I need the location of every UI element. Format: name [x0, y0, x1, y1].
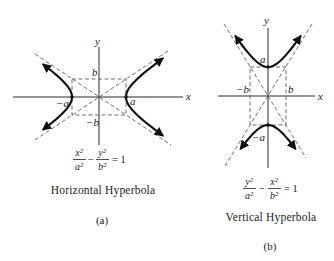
x-axis-label: x: [317, 90, 323, 102]
equation-horizontal: x² a² − y² b² = 1: [73, 147, 126, 172]
panel-caption: (b): [264, 240, 277, 253]
asymptote-positive: [35, 51, 168, 140]
eq-rhs: = 1: [284, 183, 298, 194]
label-neg-a: −a: [56, 97, 69, 109]
eq-numerator-1: y²: [244, 176, 253, 187]
label-neg-b: −b: [236, 83, 249, 95]
eq-numerator-2: y²: [97, 147, 106, 158]
eq-numerator-2: x²: [269, 176, 278, 187]
y-axis-label: y: [263, 14, 269, 26]
label-b: b: [288, 83, 294, 95]
eq-denominator-2: b²: [98, 161, 107, 172]
eq-rhs: = 1: [112, 154, 126, 165]
panel-horizontal-hyperbola: y x b −b −a a x² a² − y² b² = 1 Horizont…: [13, 35, 191, 227]
vertex-top: [266, 65, 270, 69]
eq-denominator-1: a²: [75, 161, 84, 172]
x-axis-label: x: [185, 90, 191, 102]
label-b: b: [92, 66, 98, 78]
hyperbola-figure: y x b −b −a a x² a² − y² b² = 1 Horizont…: [0, 0, 334, 261]
vertex-left: [70, 95, 74, 99]
vertex-bottom: [266, 123, 270, 127]
eq-numerator-1: x²: [74, 147, 83, 158]
eq-operator: −: [88, 154, 94, 165]
panel-title: Vertical Hyperbola: [226, 211, 317, 224]
equation-vertical: y² a² − x² b² = 1: [243, 176, 298, 201]
eq-operator: −: [259, 183, 265, 194]
label-a: a: [260, 53, 266, 65]
label-neg-b: −b: [86, 116, 99, 128]
eq-denominator-1: a²: [245, 190, 254, 201]
vertex-right: [124, 95, 128, 99]
label-a: a: [130, 95, 136, 107]
panel-title: Horizontal Hyperbola: [51, 184, 156, 197]
y-axis-label: y: [94, 35, 100, 47]
eq-denominator-2: b²: [270, 190, 279, 201]
panel-vertical-hyperbola: y x a −a −b b y² a² − x² b² = 1 Vertical…: [218, 14, 323, 253]
panel-caption: (a): [96, 214, 109, 227]
label-neg-a: −a: [252, 131, 265, 143]
